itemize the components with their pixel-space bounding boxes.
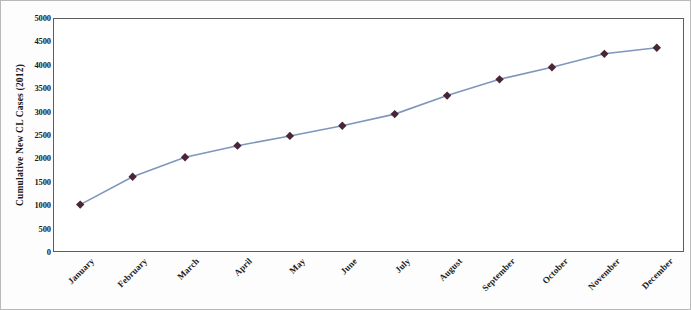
series-line bbox=[80, 48, 657, 205]
data-point-marker bbox=[76, 200, 84, 208]
data-point-marker bbox=[128, 173, 136, 181]
y-tick-label: 1500 bbox=[34, 177, 51, 187]
line-series-svg bbox=[54, 19, 683, 251]
data-point-marker bbox=[600, 50, 608, 58]
data-point-marker bbox=[548, 63, 556, 71]
y-axis-tick-labels: 0500100015002000250030003500400045005000 bbox=[23, 18, 51, 252]
y-tick-label: 3000 bbox=[34, 107, 51, 117]
y-tick-label: 5000 bbox=[34, 13, 51, 23]
data-point-marker bbox=[233, 142, 241, 150]
y-tick-label: 1000 bbox=[34, 200, 51, 210]
plot-area bbox=[53, 18, 684, 252]
x-axis-tick-labels: JanuaryFebruaryMarchAprilMayJuneJulyAugu… bbox=[53, 254, 684, 310]
chart-figure: Cumulative New CL Cases (2012) 050010001… bbox=[0, 0, 691, 310]
data-point-marker bbox=[286, 132, 294, 140]
y-tick-label: 500 bbox=[39, 224, 51, 234]
y-tick-label: 0 bbox=[47, 247, 51, 257]
data-point-marker bbox=[338, 122, 346, 130]
data-point-marker bbox=[653, 44, 661, 52]
data-point-marker bbox=[391, 110, 399, 118]
data-point-marker bbox=[443, 91, 451, 99]
data-point-marker bbox=[181, 153, 189, 161]
y-tick-label: 2000 bbox=[34, 153, 51, 163]
y-tick-label: 4500 bbox=[34, 36, 51, 46]
y-tick-label: 3500 bbox=[34, 83, 51, 93]
y-tick-label: 2500 bbox=[34, 130, 51, 140]
y-tick-label: 4000 bbox=[34, 60, 51, 70]
data-point-marker bbox=[495, 75, 503, 83]
